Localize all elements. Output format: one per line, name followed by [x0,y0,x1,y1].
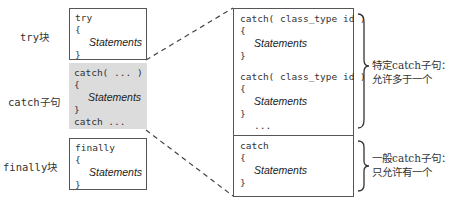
label-finally-block: finally块 [3,159,57,174]
close-brace: } [75,179,142,191]
dashed-connector-bottom [146,130,233,196]
catch-more: catch ... [74,116,143,128]
label-try-block: try块 [20,29,49,44]
open-brace: { [240,83,366,95]
finally-keyword: finally [75,142,142,154]
finally-box: finally { Statements } [69,138,147,190]
open-brace: { [75,154,142,166]
open-brace: { [74,79,143,91]
specific-note-line1: 特定catch子句： [372,58,450,72]
label-catch-clause: catch子句 [8,94,60,109]
try-keyword: try [75,12,142,24]
statements-text: Statements [75,166,142,179]
specific-note-line2: 允许多于一个 [372,72,450,86]
general-catch-header: catch [240,140,307,152]
statements-text: Statements [240,164,307,177]
close-brace: } [240,108,366,120]
general-note-line1: 一般catch子句： [372,151,450,165]
close-brace: } [240,177,307,189]
catch-detail-box: catch( class_type id ) { Statements } ca… [233,8,354,197]
general-catch-note: 一般catch子句： 只允许有一个 [372,151,450,179]
open-brace: { [75,24,142,36]
close-brace: } [74,104,143,116]
catch-header: catch( ... ) [74,67,143,79]
open-brace: { [240,152,307,164]
statements-text: Statements [240,37,366,50]
dashed-connector-top [146,8,233,60]
statements-text: Statements [240,95,366,108]
close-brace: } [75,49,142,61]
specific-catch-header: catch( class_type id ) [240,13,366,25]
specific-catch-note: 特定catch子句： 允许多于一个 [372,58,450,86]
catch-box: catch( ... ) { Statements } catch ... [69,63,147,129]
statements-text: Statements [74,91,143,104]
open-brace: { [240,25,366,37]
catch-divider [234,135,353,136]
brace-general-icon [358,141,369,191]
try-box: try { Statements } [69,8,147,60]
general-note-line2: 只允许有一个 [372,165,450,179]
ellipsis: ... [240,120,366,132]
close-brace: } [240,50,366,62]
statements-text: Statements [75,36,142,49]
specific-catch-header: catch( class_type id ) [240,71,366,83]
